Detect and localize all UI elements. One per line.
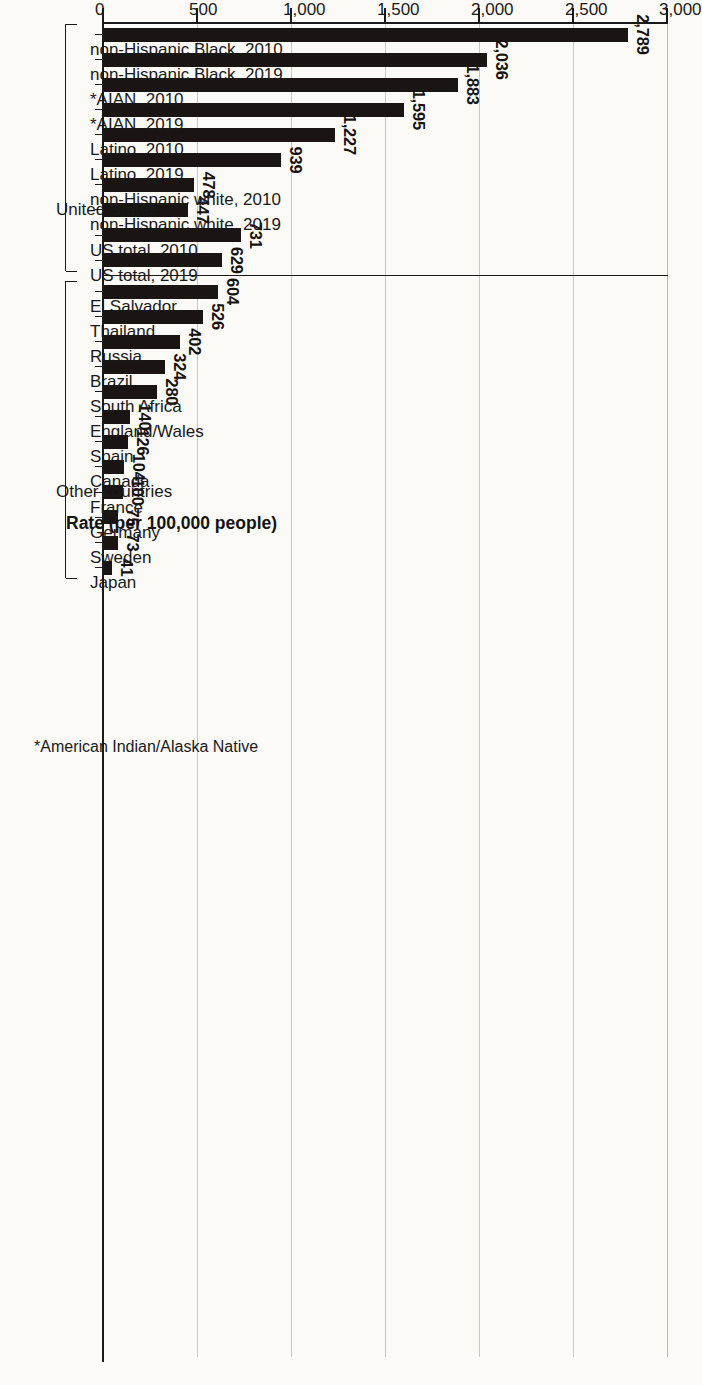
category-tick <box>95 291 104 292</box>
group-label: Other countries <box>56 482 172 502</box>
value-tick-label: 500 <box>189 0 217 20</box>
bar-slot: 280 <box>104 379 694 404</box>
bar-slot: 100 <box>104 480 694 505</box>
group-bracket-line <box>65 24 66 271</box>
bar-slot: 1,595 <box>104 97 694 122</box>
chart-footnote: *American Indian/Alaska Native <box>34 738 258 756</box>
bar-slot: 324 <box>104 354 694 379</box>
category-label: non-Hispanic Black, 2010 <box>90 40 283 60</box>
value-tick-label: 3,000 <box>659 0 702 20</box>
category-label: *AIAN, 2010 <box>90 90 184 110</box>
group-separator <box>102 275 668 276</box>
bar-slot: 526 <box>104 304 694 329</box>
category-label: Latino, 2010 <box>90 140 184 160</box>
bar-value-label: 402 <box>185 328 204 355</box>
category-label: Sweden <box>90 548 151 568</box>
bar-value-label: 526 <box>208 303 227 330</box>
category-label: Brazil <box>90 372 133 392</box>
category-label: non-Hispanic Black, 2019 <box>90 65 283 85</box>
bar-slot: 41 <box>104 555 694 580</box>
value-axis-title: Rate (per 100,000 people) <box>66 513 277 534</box>
bar-slot: 402 <box>104 329 694 354</box>
value-tick-label: 1,500 <box>377 0 420 20</box>
category-label: US total, 2010 <box>90 241 198 261</box>
group-bracket-cap <box>66 271 77 272</box>
bar-slot: 1,227 <box>104 122 694 147</box>
category-label: Thailand <box>90 322 155 342</box>
category-label: Japan <box>90 573 136 593</box>
value-tick-label: 1,000 <box>283 0 326 20</box>
value-tick-label: 0 <box>95 0 104 20</box>
group-bracket-cap <box>66 24 77 25</box>
value-tick-label: 2,500 <box>565 0 608 20</box>
bar-value-label: 629 <box>227 247 246 274</box>
bar-value-label: 939 <box>286 147 305 174</box>
category-label: Russia <box>90 347 142 367</box>
category-label: Spain <box>90 447 133 467</box>
group-label: United States <box>56 200 158 220</box>
bar-value-label: 604 <box>223 278 242 305</box>
bar-value-label: 324 <box>170 353 189 380</box>
category-label: South Africa <box>90 397 182 417</box>
bar-slot: 104 <box>104 455 694 480</box>
category-label: Latino, 2019 <box>90 165 184 185</box>
category-label: El Salvador <box>90 297 177 317</box>
bar-slot: 939 <box>104 148 694 173</box>
category-tick <box>95 34 104 35</box>
category-label: England/Wales <box>90 422 204 442</box>
group-bracket-cap <box>66 578 77 579</box>
value-tick-label: 2,000 <box>471 0 514 20</box>
group-bracket-cap <box>66 281 77 282</box>
category-label: *AIAN, 2019 <box>90 115 184 135</box>
